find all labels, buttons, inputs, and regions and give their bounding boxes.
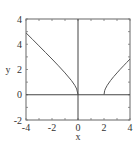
x-axis-label: x xyxy=(76,131,81,142)
y-tick-labels: -20244 xyxy=(14,14,22,126)
x-tick-label: 2 xyxy=(102,122,107,133)
y-tick-label: -2 xyxy=(14,115,22,126)
y-tick-label: 0 xyxy=(17,89,22,100)
series-1-line xyxy=(104,59,130,95)
y-tick-label: 4 xyxy=(17,14,22,25)
chart: -4-2024 -20244 x y xyxy=(0,0,135,145)
x-tick-label: -2 xyxy=(48,122,56,133)
x-tick-label: -4 xyxy=(22,122,30,133)
y-axis-label: y xyxy=(6,64,11,75)
y-tick-label: 4 xyxy=(17,39,22,50)
y-tick-label: 2 xyxy=(17,64,22,75)
x-tick-label: 4 xyxy=(128,122,133,133)
series-0-line xyxy=(26,33,78,95)
